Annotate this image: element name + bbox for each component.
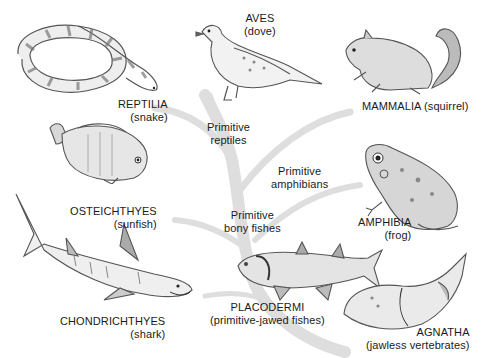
class-example: (shark) xyxy=(60,328,165,341)
branch-label-primitive-reptiles: Primitive reptiles xyxy=(207,121,250,147)
label-aves: AVES (dove) xyxy=(244,12,276,38)
snake-illustration xyxy=(8,14,160,104)
sunfish-illustration xyxy=(48,120,154,184)
branch-label-primitive-amphibians: Primitive amphibians xyxy=(271,165,328,191)
label-chondrichthyes: CHONDRICHTHYES (shark) xyxy=(60,315,165,341)
class-name: OSTEICHTHYES xyxy=(70,205,157,218)
label-mammalia: MAMMALIA (squirrel) xyxy=(362,100,468,113)
class-example: (squirrel) xyxy=(424,100,468,112)
class-example: (primitive-jawed fishes) xyxy=(210,314,325,327)
label-osteichthyes: OSTEICHTHYES (sunfish) xyxy=(70,205,157,231)
label-reptilia: REPTILIA (snake) xyxy=(118,98,168,124)
class-name: PLACODERMI xyxy=(210,301,325,314)
branch-label-primitive-bony-fishes: Primitive bony fishes xyxy=(224,209,281,235)
class-name: CHONDRICHTHYES xyxy=(60,315,165,328)
class-name: AVES xyxy=(244,12,276,25)
squirrel-illustration xyxy=(340,18,472,100)
class-name: MAMMALIA xyxy=(362,100,421,112)
class-example: (sunfish) xyxy=(70,218,157,231)
agnatha-illustration xyxy=(342,252,470,332)
class-example: (jawless vertebrates) xyxy=(366,339,470,352)
class-example: (frog) xyxy=(358,229,411,242)
label-placodermi: PLACODERMI (primitive-jawed fishes) xyxy=(210,301,325,327)
class-example: (snake) xyxy=(118,111,168,124)
class-name: AGNATHA xyxy=(366,326,470,339)
label-agnatha: AGNATHA (jawless vertebrates) xyxy=(366,326,470,352)
class-example: (dove) xyxy=(244,25,276,38)
class-name: AMPHIBIA xyxy=(358,216,411,229)
class-name: REPTILIA xyxy=(118,98,168,111)
label-amphibia: AMPHIBIA (frog) xyxy=(358,216,411,242)
